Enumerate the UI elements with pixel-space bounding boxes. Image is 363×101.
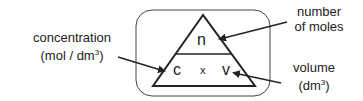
label-volume-line2: (dm3) — [284, 75, 344, 93]
arrow-concentration — [118, 57, 164, 71]
label-concentration: concentration (mol / dm3) — [22, 30, 122, 63]
symbol-times: x — [200, 64, 206, 76]
label-volume-line1: volume — [284, 60, 344, 75]
symbol-v: v — [222, 61, 230, 79]
symbol-c: c — [173, 61, 181, 79]
label-concentration-line1: concentration — [22, 30, 122, 45]
arrow-volume — [234, 73, 281, 83]
label-moles-line1: number — [284, 4, 354, 19]
label-moles-line2: of moles — [284, 19, 354, 34]
arrow-moles — [220, 22, 287, 39]
symbol-n: n — [197, 31, 206, 49]
label-concentration-line2: (mol / dm3) — [22, 45, 122, 63]
label-volume: volume (dm3) — [284, 60, 344, 93]
label-number-of-moles: number of moles — [284, 4, 354, 34]
